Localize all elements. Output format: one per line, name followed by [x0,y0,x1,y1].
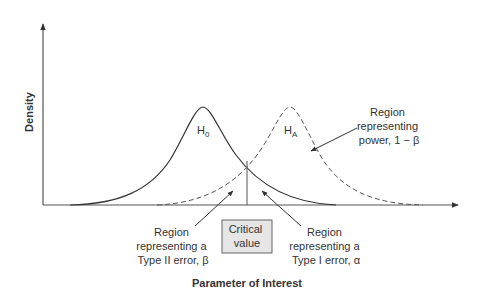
y-axis-title: Density [23,91,35,132]
type1-annotation: Region representing a Type I error, α [289,226,362,266]
x-axis-title: Parameter of Interest [192,277,302,289]
h0-curve [70,107,336,205]
power-arrow [311,128,357,151]
hypothesis-test-diagram: H0 HA Region representing power, 1 − β R… [0,0,480,299]
h0-label: H0 [197,124,210,139]
power-annotation: Region representing power, 1 − β [357,106,421,146]
type2-annotation: Region representing a Type II error, β [136,226,209,266]
ha-label: HA [284,124,298,139]
